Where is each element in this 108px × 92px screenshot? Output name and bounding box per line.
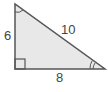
triangle-shape bbox=[15, 4, 105, 69]
left-leg-label: 6 bbox=[4, 28, 11, 43]
bottom-leg-label: 8 bbox=[56, 70, 63, 85]
hypotenuse-label: 10 bbox=[61, 22, 75, 37]
right-triangle-diagram: 6 10 8 bbox=[0, 0, 108, 92]
